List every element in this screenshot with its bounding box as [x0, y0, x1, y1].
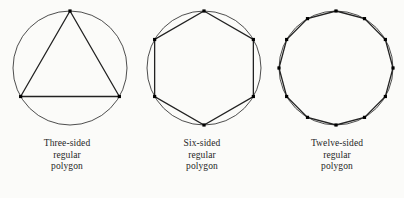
- regular-polygon-12: [279, 11, 393, 125]
- polygon-vertex-dot: [306, 17, 309, 20]
- polygon-vertex-dot: [252, 38, 255, 41]
- vertex-group: [19, 9, 121, 98]
- circumscribed-circle: [147, 11, 261, 125]
- caption-line: polygon: [311, 161, 363, 173]
- caption-line: Three-sided: [44, 138, 90, 150]
- polygon-vertex-dot: [334, 9, 337, 12]
- panel-three-sided: Three-sided regular polygon: [0, 0, 134, 198]
- polygon-vertex-dot: [118, 95, 121, 98]
- twelve-sided-svg: [270, 0, 404, 136]
- panel-six-sided-drawing: [135, 0, 269, 136]
- panel-twelve-sided: Twelve-sided regular polygon: [270, 0, 404, 198]
- polygon-vertex-dot: [384, 95, 387, 98]
- caption-line: regular: [311, 150, 363, 162]
- polygon-vertex-dot: [202, 9, 205, 12]
- caption-twelve-sided: Twelve-sided regular polygon: [311, 138, 363, 173]
- three-sided-svg: [0, 0, 134, 136]
- caption-line: regular: [44, 150, 90, 162]
- polygon-vertex-dot: [277, 66, 280, 69]
- polygon-vertex-dot: [334, 123, 337, 126]
- regular-polygon-6: [155, 11, 254, 125]
- regular-polygon-3: [21, 11, 120, 97]
- polygon-figure: Three-sided regular polygon Six-sided re…: [0, 0, 404, 198]
- polygon-vertex-dot: [306, 116, 309, 119]
- polygon-vertex-dot: [363, 17, 366, 20]
- caption-line: polygon: [44, 161, 90, 173]
- polygon-vertex-dot: [391, 66, 394, 69]
- polygon-vertex-dot: [252, 95, 255, 98]
- caption-three-sided: Three-sided regular polygon: [44, 138, 90, 173]
- polygon-vertex-dot: [19, 95, 22, 98]
- polygon-vertex-dot: [153, 95, 156, 98]
- polygon-vertex-dot: [285, 38, 288, 41]
- polygon-vertex-dot: [153, 38, 156, 41]
- circumscribed-circle: [279, 11, 393, 125]
- caption-line: polygon: [184, 161, 221, 173]
- six-sided-svg: [135, 0, 269, 136]
- panel-six-sided: Six-sided regular polygon: [135, 0, 269, 198]
- caption-line: Twelve-sided: [311, 138, 363, 150]
- polygon-vertex-dot: [384, 38, 387, 41]
- vertex-group: [277, 9, 394, 126]
- polygon-vertex-dot: [68, 9, 71, 12]
- circumscribed-circle: [13, 11, 127, 125]
- panel-three-sided-drawing: [0, 0, 134, 136]
- polygon-vertex-dot: [285, 95, 288, 98]
- polygon-vertex-dot: [363, 116, 366, 119]
- caption-six-sided: Six-sided regular polygon: [184, 138, 221, 173]
- vertex-group: [153, 9, 255, 126]
- caption-line: Six-sided: [184, 138, 221, 150]
- caption-line: regular: [184, 150, 221, 162]
- polygon-vertex-dot: [202, 123, 205, 126]
- panel-twelve-sided-drawing: [270, 0, 404, 136]
